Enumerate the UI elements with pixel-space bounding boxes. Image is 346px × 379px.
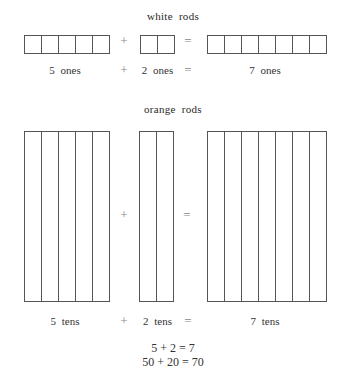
white-rod — [292, 35, 310, 54]
orange-rod — [275, 131, 293, 302]
white-rods-group-a — [24, 35, 110, 54]
white-rod — [309, 35, 327, 54]
white-rod — [92, 35, 110, 54]
white-rod — [157, 35, 175, 54]
white-rods-group-b — [140, 35, 175, 54]
white-rods-title: white rods — [0, 10, 346, 22]
equals-sign: = — [178, 33, 198, 49]
orange-rods-group-b — [139, 131, 174, 302]
white-rod — [58, 35, 76, 54]
orange-rod — [139, 131, 157, 302]
white-rod — [258, 35, 276, 54]
white-rod — [24, 35, 42, 54]
label-7-ones: 7 ones — [235, 64, 295, 76]
equation-tens: 50 + 20 = 70 — [0, 355, 346, 370]
white-rod — [41, 35, 59, 54]
label-5-ones: 5 ones — [35, 64, 95, 76]
label-2-tens: 2 tens — [135, 315, 180, 327]
orange-rod — [292, 131, 310, 302]
label-equals: = — [178, 62, 198, 78]
label-5-tens: 5 tens — [35, 315, 95, 327]
label-equals: = — [178, 313, 198, 329]
orange-rods-title: orange rods — [0, 103, 346, 115]
white-rod — [207, 35, 225, 54]
orange-rod — [75, 131, 93, 302]
equation-ones: 5 + 2 = 7 — [0, 341, 346, 356]
label-7-tens: 7 tens — [235, 315, 295, 327]
orange-rod — [224, 131, 242, 302]
equals-sign: = — [177, 207, 197, 223]
plus-sign: + — [114, 33, 134, 49]
white-rod — [75, 35, 93, 54]
white-rod — [140, 35, 158, 54]
plus-sign: + — [114, 207, 134, 223]
orange-rod — [258, 131, 276, 302]
label-plus: + — [114, 313, 134, 329]
label-2-ones: 2 ones — [135, 64, 180, 76]
orange-rods-group-c — [207, 131, 327, 302]
label-plus: + — [114, 62, 134, 78]
white-rod — [275, 35, 293, 54]
orange-rod — [241, 131, 259, 302]
white-rod — [241, 35, 259, 54]
orange-rod — [58, 131, 76, 302]
orange-rod — [41, 131, 59, 302]
white-rod — [224, 35, 242, 54]
orange-rod — [207, 131, 225, 302]
orange-rods-group-a — [24, 131, 110, 302]
orange-rod — [309, 131, 327, 302]
orange-rod — [156, 131, 174, 302]
orange-rod — [24, 131, 42, 302]
orange-rod — [92, 131, 110, 302]
white-rods-group-c — [207, 35, 327, 54]
